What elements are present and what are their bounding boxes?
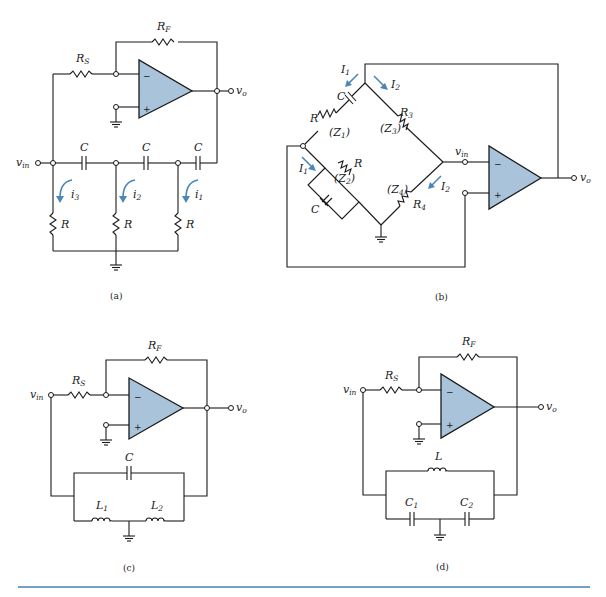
svg-text:C: C [125,451,134,464]
panel-a-rc-phase-shift: RF RS − + vo vin [16,20,247,301]
svg-text:R4: R4 [412,198,426,212]
caption-b: (b) [435,292,448,302]
label-rs: RS [75,52,89,66]
svg-text:RF: RF [461,335,476,349]
svg-text:−: − [143,71,151,81]
label-rf: RF [156,20,171,34]
svg-text:(Z1): (Z1) [329,126,350,140]
svg-text:C: C [311,203,320,216]
svg-text:vin: vin [343,383,357,397]
svg-text:L1: L1 [95,499,108,513]
svg-text:C1: C1 [405,496,418,510]
svg-text:R: R [60,218,69,231]
svg-text:+: + [134,422,142,432]
caption-d: (d) [436,562,449,572]
svg-text:vo: vo [546,400,557,414]
svg-text:i3: i3 [71,188,80,202]
svg-text:I2: I2 [390,78,400,92]
svg-text:+: + [143,104,151,114]
svg-text:−: − [494,159,502,169]
label-vo-a: vo [236,84,247,98]
svg-text:vo: vo [236,401,247,415]
caption-a: (a) [110,291,122,301]
svg-text:R: R [123,218,132,231]
svg-text:RS: RS [384,369,398,383]
svg-text:+: + [494,190,502,200]
svg-text:C: C [142,141,151,154]
svg-text:(Z4): (Z4) [387,183,408,197]
panel-b-wien-bridge: C R (Z1) R3 (Z3) R (Z2) C (Z4) R4 [287,63,591,302]
svg-text:RS: RS [71,374,85,388]
svg-text:C: C [194,141,203,154]
label-vin-a: vin [16,156,30,170]
svg-text:RF: RF [147,339,162,353]
svg-text:I1: I1 [298,162,308,176]
svg-text:vo: vo [580,171,591,185]
svg-text:R: R [309,112,318,125]
oscillator-figure: RF RS − + vo vin [0,0,606,597]
resistor-rs [70,71,92,77]
svg-text:C: C [80,141,89,154]
svg-text:L2: L2 [150,499,163,513]
svg-text:i2: i2 [133,188,142,202]
svg-text:+: + [446,420,454,430]
panel-d-colpitts: RF vin RS − + vo L C1 C2 (d) [343,335,557,572]
svg-text:R3: R3 [399,106,413,120]
svg-text:C2: C2 [460,496,473,510]
svg-text:(Z2): (Z2) [334,172,355,186]
svg-text:i1: i1 [195,188,203,202]
svg-text:L: L [434,450,442,463]
svg-text:(Z3): (Z3) [380,122,401,136]
svg-text:I2: I2 [440,180,450,194]
svg-text:−: − [446,387,454,397]
svg-text:vin: vin [30,388,44,402]
svg-text:R: R [353,157,362,170]
caption-c: (c) [123,563,135,573]
svg-text:I1: I1 [340,63,350,77]
svg-text:R: R [185,218,194,231]
svg-text:vin: vin [455,145,469,159]
svg-text:−: − [134,392,142,402]
resistor-rf [152,39,174,45]
panel-c-hartley: RF vin RS − + vo C L1 L2 (c) [30,339,247,573]
svg-text:C: C [337,90,346,103]
